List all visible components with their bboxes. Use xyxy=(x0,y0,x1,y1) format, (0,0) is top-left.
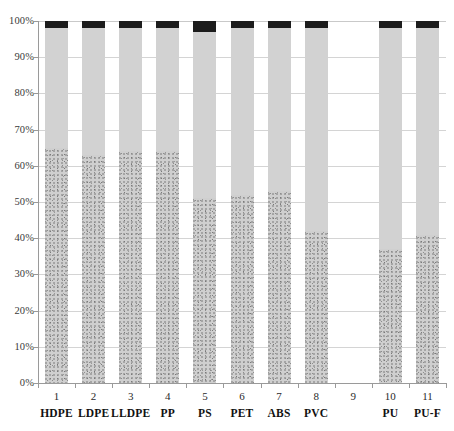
bar-group xyxy=(38,21,446,383)
x-axis-number-label: 3 xyxy=(112,389,149,403)
bar-segment-bottom-segment xyxy=(119,151,142,383)
x-axis-tick-mark xyxy=(149,383,150,388)
bar-segment-bottom-segment xyxy=(416,235,439,383)
y-axis-tick-label: 20% xyxy=(0,306,34,316)
bar-segment-middle-segment xyxy=(268,28,291,191)
bar-segment-bottom-segment xyxy=(156,151,179,383)
stacked-bar[interactable] xyxy=(45,21,68,383)
x-axis-number-label: 9 xyxy=(335,389,372,403)
stacked-bar[interactable] xyxy=(156,21,179,383)
bar-segment-top-segment xyxy=(379,21,402,28)
x-axis-number-label: 4 xyxy=(149,389,186,403)
bar-segment-middle-segment xyxy=(45,28,68,147)
y-axis-tick-label: 70% xyxy=(0,125,34,135)
x-axis-number-label: 7 xyxy=(261,389,298,403)
x-axis-tick-mark xyxy=(409,383,410,388)
stacked-bar[interactable] xyxy=(416,21,439,383)
stacked-bar[interactable] xyxy=(268,21,291,383)
bar-segment-top-segment xyxy=(82,21,105,28)
bar-slot xyxy=(156,21,179,383)
bar-segment-middle-segment xyxy=(193,32,216,199)
bar-slot xyxy=(305,21,328,383)
bar-slot xyxy=(193,21,216,383)
y-axis-tick-label: 30% xyxy=(0,269,34,279)
stacked-bar[interactable] xyxy=(231,21,254,383)
x-axis-numbers: 1234567891011 xyxy=(38,389,446,405)
bar-segment-bottom-segment xyxy=(82,155,105,383)
x-axis-category-label: PVC xyxy=(292,406,341,421)
y-axis-tick-label: 40% xyxy=(0,233,34,243)
x-axis-number-label: 8 xyxy=(298,389,335,403)
stacked-bar[interactable] xyxy=(379,21,402,383)
x-axis-tick-mark xyxy=(446,383,447,388)
bar-segment-top-segment xyxy=(193,21,216,32)
bar-slot xyxy=(45,21,68,383)
y-axis-tick-label: 80% xyxy=(0,88,34,98)
x-axis-number-label: 2 xyxy=(75,389,112,403)
x-axis-category-labels: HDPELDPELLDPEPPPSPETABSPVCPUPU-F xyxy=(0,406,454,426)
x-axis-tick-mark xyxy=(335,383,336,388)
bar-segment-middle-segment xyxy=(119,28,142,151)
bar-segment-bottom-segment xyxy=(305,231,328,383)
bar-slot xyxy=(119,21,142,383)
bar-segment-top-segment xyxy=(416,21,439,28)
y-axis-tick-label: 0% xyxy=(0,378,34,388)
bar-segment-bottom-segment xyxy=(193,198,216,383)
bar-segment-top-segment xyxy=(156,21,179,28)
bar-segment-bottom-segment xyxy=(379,249,402,383)
bar-segment-middle-segment xyxy=(82,28,105,155)
x-axis-tick-mark xyxy=(223,383,224,388)
y-axis-tick-label: 50% xyxy=(0,197,34,207)
y-axis-tick-label: 60% xyxy=(0,161,34,171)
bar-slot xyxy=(231,21,254,383)
x-axis-category-label: PU-F xyxy=(403,406,452,421)
bar-segment-top-segment xyxy=(231,21,254,28)
x-axis-number-label: 10 xyxy=(372,389,409,403)
bar-segment-bottom-segment xyxy=(45,148,68,383)
bar-segment-middle-segment xyxy=(231,28,254,195)
bar-slot xyxy=(342,21,365,383)
x-axis-tick-mark xyxy=(112,383,113,388)
bar-segment-bottom-segment xyxy=(268,191,291,383)
x-axis-tick-mark xyxy=(372,383,373,388)
y-axis-tick-label: 10% xyxy=(0,342,34,352)
x-axis-number-label: 1 xyxy=(38,389,75,403)
y-axis-tick-label: 90% xyxy=(0,52,34,62)
y-axis: 0%10%20%30%40%50%60%70%80%90%100% xyxy=(0,0,34,431)
x-axis-tick-mark xyxy=(298,383,299,388)
x-axis-number-label: 5 xyxy=(186,389,223,403)
bar-segment-middle-segment xyxy=(305,28,328,231)
bar-segment-middle-segment xyxy=(156,28,179,151)
bar-slot xyxy=(379,21,402,383)
bar-segment-middle-segment xyxy=(416,28,439,234)
bar-segment-middle-segment xyxy=(379,28,402,249)
x-axis-line xyxy=(38,383,446,384)
bar-segment-bottom-segment xyxy=(231,195,254,383)
x-axis-tick-mark xyxy=(75,383,76,388)
stacked-bar[interactable] xyxy=(193,21,216,383)
bar-slot xyxy=(416,21,439,383)
bar-segment-top-segment xyxy=(45,21,68,28)
bar-segment-top-segment xyxy=(268,21,291,28)
x-axis-number-label: 6 xyxy=(223,389,260,403)
stacked-bar[interactable] xyxy=(82,21,105,383)
stacked-bar[interactable] xyxy=(305,21,328,383)
x-axis-tick-mark xyxy=(186,383,187,388)
bar-slot xyxy=(268,21,291,383)
y-axis-tick-label: 100% xyxy=(0,16,34,26)
bar-segment-top-segment xyxy=(305,21,328,28)
x-axis-number-label: 11 xyxy=(409,389,446,403)
bar-slot xyxy=(82,21,105,383)
chart-container: 0%10%20%30%40%50%60%70%80%90%100% 123456… xyxy=(0,0,454,431)
stacked-bar[interactable] xyxy=(119,21,142,383)
bar-segment-top-segment xyxy=(119,21,142,28)
x-axis-tick-mark xyxy=(261,383,262,388)
x-axis-tick-mark xyxy=(38,383,39,388)
